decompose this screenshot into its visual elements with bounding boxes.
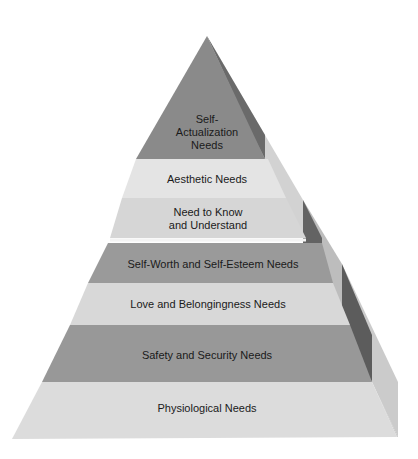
label-aesthetic: Aesthetic Needs <box>167 173 247 186</box>
label-need-to-know: Need to Know and Understand <box>169 206 247 232</box>
label-self-worth: Self-Worth and Self-Esteem Needs <box>128 258 299 271</box>
label-physiological: Physiological Needs <box>157 402 256 415</box>
label-safety: Safety and Security Needs <box>142 349 272 362</box>
label-self-actualization: Self- Actualization Needs <box>176 113 238 152</box>
label-love: Love and Belongingness Needs <box>130 298 285 311</box>
pyramid-diagram: Self- Actualization Needs Aesthetic Need… <box>0 0 418 459</box>
